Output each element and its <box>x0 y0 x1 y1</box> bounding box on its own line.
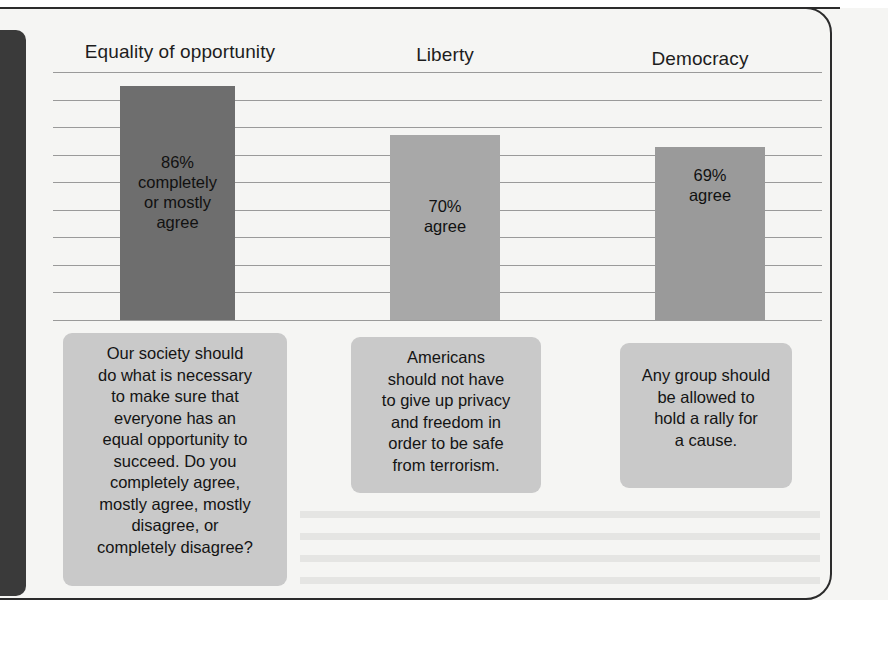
column-header-equality-of-opportunity: Equality of opportunity <box>85 41 275 63</box>
callout-equality-of-opportunity: Our society should do what is necessary … <box>63 333 287 586</box>
column-header-democracy: Democracy <box>652 48 749 70</box>
bar-label-democracy: 69% agree <box>655 165 765 205</box>
bar-label-equality-of-opportunity: 86% completely or mostly agree <box>120 152 235 232</box>
column-header-liberty: Liberty <box>416 44 474 66</box>
bar-democracy: 69% agree <box>655 147 765 320</box>
gridline <box>53 320 822 321</box>
bar-chart: Equality of opportunity Liberty Democrac… <box>0 0 888 651</box>
scanned-page: Equality of opportunity Liberty Democrac… <box>0 0 888 651</box>
gridline <box>53 72 822 73</box>
callout-democracy: Any group should be allowed to hold a ra… <box>620 343 792 488</box>
bar-equality-of-opportunity: 86% completely or mostly agree <box>120 86 235 320</box>
callout-liberty: Americans should not have to give up pri… <box>351 337 541 493</box>
bar-label-liberty: 70% agree <box>390 196 500 236</box>
bar-liberty: 70% agree <box>390 135 500 320</box>
